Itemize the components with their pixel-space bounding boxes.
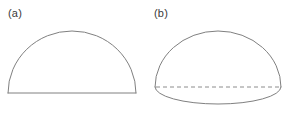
figure-drawing bbox=[0, 0, 287, 120]
figure-canvas: (a) (b) bbox=[0, 0, 287, 120]
semicircle-arc bbox=[8, 31, 136, 93]
hemisphere-dome-arc bbox=[155, 31, 281, 87]
panel-a-semicircle bbox=[8, 31, 136, 93]
panel-b-hemisphere bbox=[155, 31, 281, 104]
hemisphere-front-equator-arc bbox=[155, 87, 281, 104]
